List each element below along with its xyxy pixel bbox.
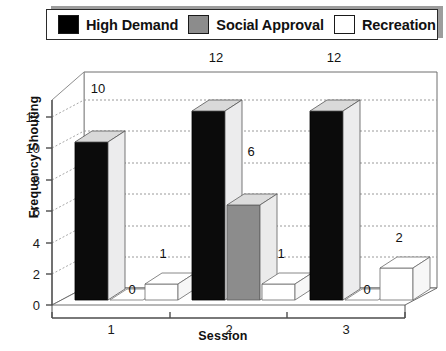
value-label-session2-recreation: 1 [269,246,293,261]
legend-label-social-approval: Social Approval [216,17,324,33]
legend-item-high-demand[interactable]: High Demand [58,15,178,34]
legend-swatch-recreation-icon [334,15,355,34]
value-label-session1-recreation: 1 [151,246,175,261]
bar-session3-recreation [380,257,430,300]
y-tick-0: 0 [14,298,40,313]
bar-session1-high-demand [75,131,125,300]
chart-container: High Demand Social Approval Recreation F… [0,0,446,351]
legend-item-social-approval[interactable]: Social Approval [188,15,324,34]
y-tick-10: 10 [14,141,40,156]
x-axis [52,305,405,318]
value-label-session1-high-demand: 10 [86,81,110,96]
chart-legend: High Demand Social Approval Recreation [46,9,438,40]
value-label-session3-social-approval: 0 [355,282,379,297]
value-label-session3-high-demand: 12 [322,50,346,65]
value-label-session1-social-approval: 0 [120,282,144,297]
legend-item-recreation[interactable]: Recreation [334,15,436,34]
value-label-session2-high-demand: 12 [204,50,228,65]
y-axis [46,100,52,305]
y-tick-6: 6 [14,204,40,219]
legend-swatch-social-approval-icon [188,15,209,34]
y-tick-12: 12 [14,110,40,125]
bar-session3-high-demand [310,100,360,300]
value-label-session2-social-approval: 6 [239,144,263,159]
legend-swatch-high-demand-icon [58,15,79,34]
value-label-session3-recreation: 2 [387,230,411,245]
y-tick-4: 4 [14,236,40,251]
legend-label-high-demand: High Demand [86,17,178,33]
y-tick-2: 2 [14,267,40,282]
legend-label-recreation: Recreation [362,17,436,33]
x-axis-title: Session [0,329,446,343]
y-tick-8: 8 [14,173,40,188]
